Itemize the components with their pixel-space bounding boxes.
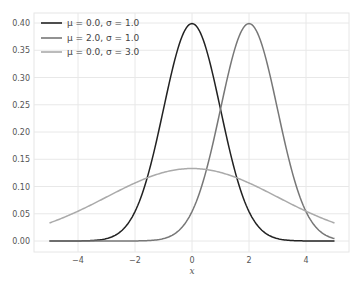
legend-label-0: μ = 0.0, σ = 1.0 <box>67 18 140 28</box>
x-tick-label: −4 <box>72 256 84 265</box>
normal-distribution-chart: 0.000.050.100.150.200.250.300.350.40 −4−… <box>0 0 362 289</box>
y-tick-label: 0.10 <box>12 183 30 192</box>
x-tick-label: 2 <box>246 256 251 265</box>
x-axis-ticks: −4−2024 <box>72 256 308 265</box>
y-axis-ticks: 0.000.050.100.150.200.250.300.350.40 <box>12 19 30 246</box>
y-tick-label: 0.00 <box>12 237 30 246</box>
y-tick-label: 0.15 <box>12 155 30 164</box>
legend-label-2: μ = 0.0, σ = 3.0 <box>67 47 140 57</box>
x-axis-label: x <box>189 266 194 276</box>
y-tick-label: 0.30 <box>12 74 30 83</box>
y-tick-label: 0.25 <box>12 101 30 110</box>
y-tick-label: 0.20 <box>12 128 30 137</box>
y-tick-label: 0.05 <box>12 210 30 219</box>
x-tick-label: −2 <box>129 256 141 265</box>
x-tick-label: 0 <box>189 256 194 265</box>
y-tick-label: 0.40 <box>12 19 30 28</box>
legend-label-1: μ = 2.0, σ = 1.0 <box>67 33 140 43</box>
y-tick-label: 0.35 <box>12 46 30 55</box>
x-tick-label: 4 <box>303 256 308 265</box>
